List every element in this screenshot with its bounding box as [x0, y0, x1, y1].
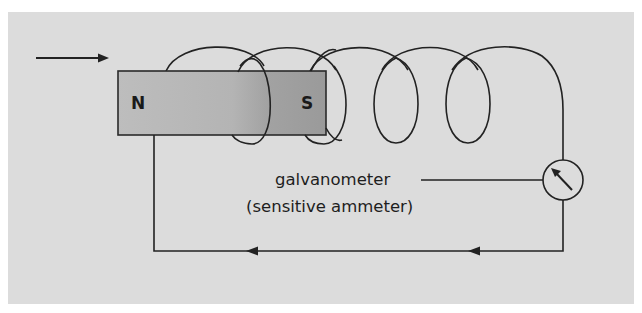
south-pole-label: S: [301, 95, 313, 112]
induction-diagram: [0, 0, 642, 313]
galvanometer-label: galvanometer: [275, 172, 390, 189]
bar-magnet: [118, 71, 326, 135]
galvanometer-icon: [543, 160, 583, 200]
diagram-canvas: N S galvanometer (sensitive ammeter): [0, 0, 642, 313]
motion-arrow-icon: [36, 54, 109, 63]
galvanometer-sublabel: (sensitive ammeter): [246, 199, 413, 216]
circuit-wire: [154, 135, 563, 251]
north-pole-label: N: [131, 95, 145, 112]
